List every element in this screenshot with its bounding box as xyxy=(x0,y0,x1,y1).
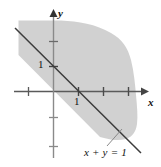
y-axis-label: y xyxy=(58,8,63,19)
inequality-graph-figure: y x 1 1 x + y = 1 xyxy=(0,0,161,167)
x-axis-label: x xyxy=(148,97,154,108)
graph-canvas xyxy=(0,0,161,167)
x-axis-tick-label-1: 1 xyxy=(74,96,80,107)
shaded-region xyxy=(19,21,138,141)
x-axis-arrowhead xyxy=(141,88,149,96)
y-axis-tick-label-1: 1 xyxy=(38,59,44,70)
boundary-line-equation-label: x + y = 1 xyxy=(84,147,127,158)
y-axis-arrowhead xyxy=(50,9,58,17)
